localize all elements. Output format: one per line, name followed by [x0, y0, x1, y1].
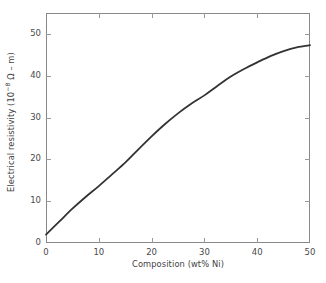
x-tick-label: 10 [89, 247, 109, 257]
chart-figure: Electrical resistivity (10−8 Ω – m) Comp… [0, 0, 326, 283]
y-tick-label: 30 [23, 112, 41, 122]
x-tick-label: 30 [194, 247, 214, 257]
x-tick-label: 40 [247, 247, 267, 257]
y-tick-label: 0 [23, 237, 41, 247]
y-tick-label: 50 [23, 28, 41, 38]
x-tick-label: 50 [300, 247, 320, 257]
x-axis-label: Composition (wt% Ni) [46, 259, 310, 269]
x-tick-label: 0 [36, 247, 56, 257]
y-axis-label-exponent: −8 [4, 82, 11, 91]
y-tick-label: 20 [23, 153, 41, 163]
plot-frame [47, 14, 310, 243]
x-tick-label: 20 [142, 247, 162, 257]
y-tick-label: 10 [23, 195, 41, 205]
y-axis-label-suffix: Ω – m) [6, 52, 16, 82]
data-series-line [46, 45, 310, 234]
y-axis-label-prefix: Electrical resistivity (10 [6, 91, 16, 191]
y-axis-label: Electrical resistivity (10−8 Ω – m) [0, 0, 22, 243]
y-tick-label: 40 [23, 70, 41, 80]
plot-svg [0, 0, 326, 283]
